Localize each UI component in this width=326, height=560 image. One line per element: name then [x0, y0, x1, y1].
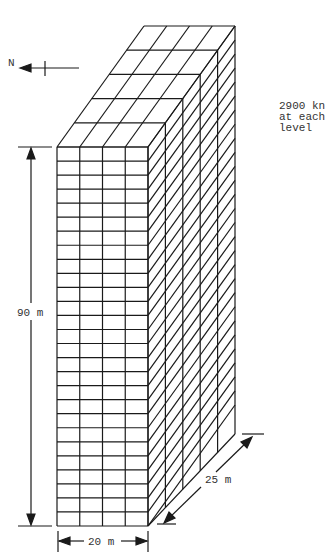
north-label: N	[8, 57, 15, 69]
building-diagram: N 90 m 20 m 25 m	[0, 0, 326, 560]
load-note: 2900 kn at each level	[279, 101, 325, 134]
building-grid	[57, 26, 235, 526]
height-dimension	[18, 147, 52, 526]
depth-label: 25 m	[205, 474, 232, 486]
north-arrow-icon	[20, 61, 79, 76]
height-label: 90 m	[17, 307, 44, 319]
width-label: 20 m	[88, 536, 115, 548]
load-note-line-3: level	[279, 123, 325, 134]
